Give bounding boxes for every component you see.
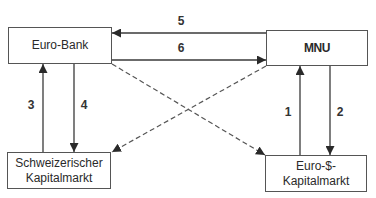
- edge-label-2: 2: [337, 106, 344, 118]
- node-euro-bank: Euro-Bank: [8, 27, 112, 64]
- node-euro-bank-label: Euro-Bank: [32, 38, 89, 53]
- edge-label-1: 1: [285, 106, 292, 118]
- diagram-canvas: Euro-Bank MNU Schweizerischer Kapitalmar…: [0, 0, 376, 198]
- node-schweizerischer-kapitalmarkt: Schweizerischer Kapitalmarkt: [7, 152, 111, 189]
- node-mnu-label: MNU: [304, 41, 330, 56]
- edge-label-6: 6: [178, 42, 185, 54]
- node-euro-dollar-kapitalmarkt: Euro-$- Kapitalmarkt: [265, 155, 367, 192]
- node-euro-dollar-kapitalmarkt-label: Euro-$- Kapitalmarkt: [283, 159, 350, 189]
- node-mnu: MNU: [266, 30, 368, 66]
- edge-label-3: 3: [28, 99, 35, 111]
- edge-label-5: 5: [178, 15, 185, 27]
- edge-dashed-mnu-to-schweiz: [112, 66, 266, 152]
- edge-label-4: 4: [81, 99, 88, 111]
- node-schweizerischer-kapitalmarkt-label: Schweizerischer Kapitalmarkt: [15, 156, 102, 186]
